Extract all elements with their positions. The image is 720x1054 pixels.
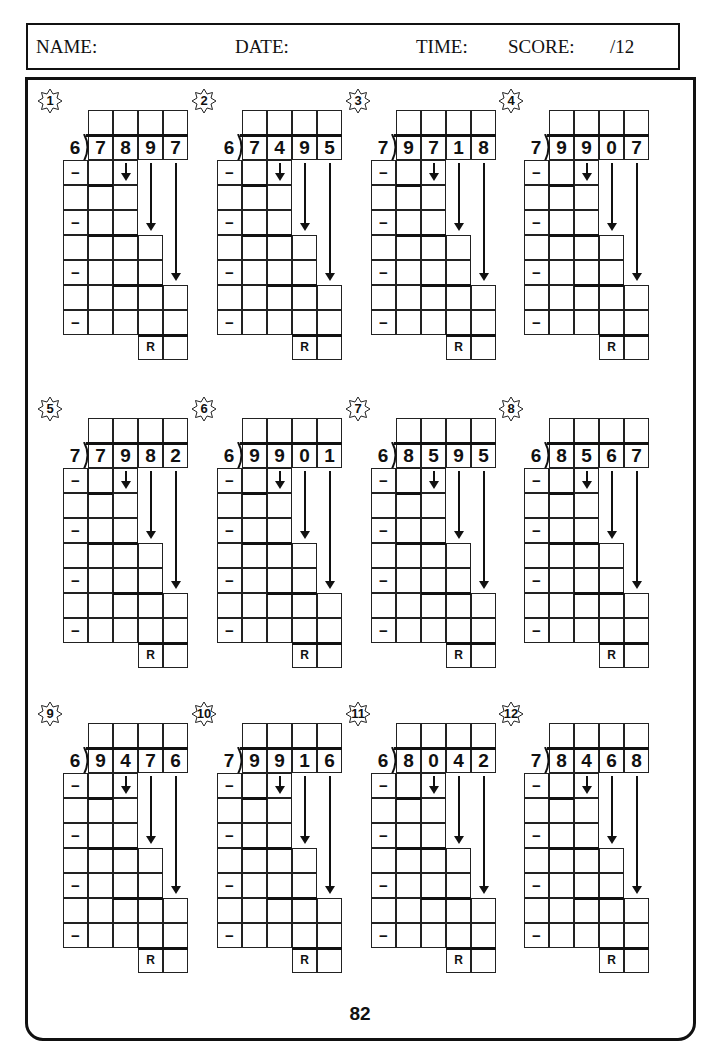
work-box[interactable] [446,310,471,335]
work-box[interactable] [113,310,138,335]
work-box[interactable] [446,923,471,948]
work-box[interactable] [421,518,446,543]
remainder-box[interactable] [624,335,649,360]
work-box[interactable] [217,543,242,568]
work-box[interactable] [292,848,317,873]
work-box[interactable] [549,873,574,898]
work-box[interactable] [471,593,496,618]
work-box[interactable] [574,185,599,210]
quotient-digit-box[interactable] [138,723,163,748]
work-box[interactable] [446,285,471,310]
quotient-digit-box[interactable] [163,418,188,443]
work-box[interactable] [396,285,421,310]
work-box[interactable] [549,235,574,260]
work-box[interactable] [242,823,267,848]
work-box[interactable] [88,873,113,898]
work-box[interactable] [88,260,113,285]
work-box[interactable] [113,185,138,210]
work-box[interactable] [88,798,113,823]
work-box[interactable] [267,185,292,210]
work-box[interactable] [217,235,242,260]
remainder-box[interactable] [471,643,496,668]
work-box[interactable] [267,310,292,335]
work-box[interactable] [574,568,599,593]
work-box[interactable] [113,798,138,823]
work-box[interactable] [267,923,292,948]
remainder-box[interactable] [471,948,496,973]
work-box[interactable] [371,798,396,823]
work-box[interactable] [88,898,113,923]
quotient-digit-box[interactable] [624,723,649,748]
quotient-digit-box[interactable] [138,418,163,443]
work-box[interactable] [242,260,267,285]
work-box[interactable] [267,848,292,873]
work-box[interactable] [63,493,88,518]
work-box[interactable] [396,160,421,185]
work-box[interactable] [88,185,113,210]
work-box[interactable] [549,468,574,493]
work-box[interactable] [217,493,242,518]
work-box[interactable] [63,798,88,823]
remainder-box[interactable] [624,948,649,973]
work-box[interactable] [242,468,267,493]
work-box[interactable] [599,618,624,643]
work-box[interactable] [63,898,88,923]
work-box[interactable] [599,898,624,923]
quotient-digit-box[interactable] [292,418,317,443]
work-box[interactable] [113,923,138,948]
quotient-digit-box[interactable] [624,110,649,135]
work-box[interactable] [396,773,421,798]
quotient-digit-box[interactable] [88,418,113,443]
work-box[interactable] [88,210,113,235]
work-box[interactable] [421,923,446,948]
quotient-digit-box[interactable] [421,110,446,135]
work-box[interactable] [63,185,88,210]
work-box[interactable] [292,898,317,923]
quotient-digit-box[interactable] [88,723,113,748]
work-box[interactable] [549,543,574,568]
work-box[interactable] [317,923,342,948]
quotient-digit-box[interactable] [138,110,163,135]
work-box[interactable] [574,898,599,923]
work-box[interactable] [292,618,317,643]
work-box[interactable] [163,923,188,948]
work-box[interactable] [446,543,471,568]
work-box[interactable] [599,235,624,260]
work-box[interactable] [267,798,292,823]
work-box[interactable] [524,798,549,823]
work-box[interactable] [574,823,599,848]
work-box[interactable] [624,618,649,643]
work-box[interactable] [63,235,88,260]
work-box[interactable] [217,593,242,618]
work-box[interactable] [371,235,396,260]
work-box[interactable] [217,898,242,923]
work-box[interactable] [549,898,574,923]
work-box[interactable] [524,493,549,518]
work-box[interactable] [396,260,421,285]
work-box[interactable] [242,518,267,543]
work-box[interactable] [138,898,163,923]
work-box[interactable] [446,618,471,643]
work-box[interactable] [88,568,113,593]
work-box[interactable] [524,543,549,568]
work-box[interactable] [292,543,317,568]
work-box[interactable] [396,593,421,618]
work-box[interactable] [113,848,138,873]
work-box[interactable] [371,185,396,210]
work-box[interactable] [371,543,396,568]
work-box[interactable] [396,493,421,518]
work-box[interactable] [549,185,574,210]
work-box[interactable] [471,310,496,335]
work-box[interactable] [396,848,421,873]
work-box[interactable] [88,593,113,618]
quotient-digit-box[interactable] [471,110,496,135]
work-box[interactable] [88,493,113,518]
work-box[interactable] [396,898,421,923]
work-box[interactable] [242,568,267,593]
work-box[interactable] [88,518,113,543]
work-box[interactable] [549,210,574,235]
work-box[interactable] [396,235,421,260]
work-box[interactable] [138,260,163,285]
work-box[interactable] [242,493,267,518]
work-box[interactable] [396,310,421,335]
